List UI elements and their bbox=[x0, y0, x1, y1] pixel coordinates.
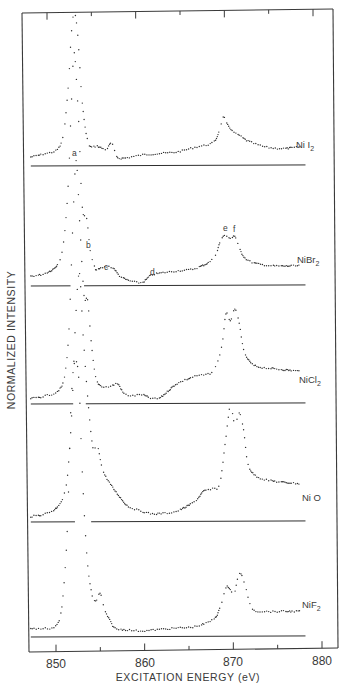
x-axis-title: EXCITATION ENERGY (eV) bbox=[116, 671, 260, 683]
label-nicl2: NiCl2 bbox=[299, 374, 321, 387]
baseline-nif2 bbox=[31, 636, 306, 637]
spectra-traces bbox=[30, 15, 300, 632]
peak-label-e: e bbox=[223, 223, 228, 233]
baselines bbox=[31, 165, 306, 637]
baseline-nio bbox=[91, 521, 305, 522]
label-nif2: NiF2 bbox=[302, 599, 321, 612]
x-tick-labels: 850 860 870 880 bbox=[46, 654, 332, 671]
baseline-nibr2 bbox=[84, 285, 305, 286]
trace-nio bbox=[30, 273, 299, 518]
baseline-nii2 bbox=[31, 165, 306, 166]
peak-annotations: a b c d e f bbox=[72, 148, 236, 277]
x-tick-label-870: 870 bbox=[223, 655, 243, 669]
peak-label-a: a bbox=[72, 148, 77, 158]
peak-label-b: b bbox=[86, 240, 91, 250]
label-nio: Ni O bbox=[302, 492, 321, 503]
y-axis-title: NORMALIZED INTENSITY bbox=[5, 271, 17, 410]
peak-label-d: d bbox=[150, 267, 155, 277]
peak-label-f: f bbox=[233, 224, 236, 234]
baseline-nicl2 bbox=[86, 403, 306, 404]
label-nibr2: NiBr2 bbox=[297, 254, 319, 267]
trace-nif2 bbox=[30, 361, 300, 632]
trace-nicl2 bbox=[30, 160, 299, 400]
x-tick-label-850: 850 bbox=[46, 657, 66, 671]
series-labels: Ni I2 NiBr2 NiCl2 Ni O NiF2 bbox=[296, 139, 321, 612]
peak-label-c: c bbox=[104, 262, 109, 272]
spectra-figure: 850 860 870 880 EXCITATION ENERGY (eV) N… bbox=[0, 0, 347, 688]
x-tick-label-880: 880 bbox=[312, 654, 332, 668]
label-nii2: Ni I2 bbox=[296, 139, 314, 152]
trace-nii2 bbox=[30, 15, 300, 160]
x-tick-label-860: 860 bbox=[135, 656, 155, 670]
trace-nibr2 bbox=[30, 52, 299, 284]
plot-frame bbox=[22, 9, 338, 652]
